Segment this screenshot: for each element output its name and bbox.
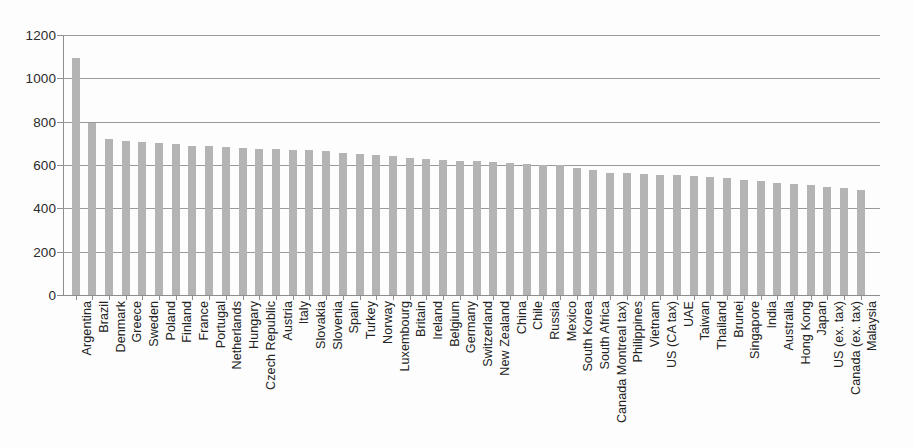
x-axis-category-label: US (ex. tax) xyxy=(832,301,846,368)
bar xyxy=(356,154,364,295)
bar-slot xyxy=(735,35,752,295)
x-axis-category-label: Thailand xyxy=(715,301,729,350)
x-axis-category-label: Italy xyxy=(297,301,311,324)
y-axis-label: 200 xyxy=(12,244,56,259)
bar-slot xyxy=(535,35,552,295)
bar-slot xyxy=(752,35,769,295)
x-axis-category-label: South Africa xyxy=(598,301,612,370)
bar-slot xyxy=(485,35,502,295)
x-tick xyxy=(827,295,828,300)
x-tick xyxy=(276,295,277,300)
x-axis-category-label: Japan xyxy=(815,301,829,336)
bar-slot xyxy=(301,35,318,295)
bar-slot xyxy=(435,35,452,295)
x-tick xyxy=(660,295,661,300)
bar-slot xyxy=(201,35,218,295)
bar xyxy=(88,123,96,295)
y-axis-label: 800 xyxy=(12,114,56,129)
bar-slot xyxy=(251,35,268,295)
bar-series xyxy=(63,35,880,295)
y-axis-label: 0 xyxy=(12,288,56,303)
x-axis-category-label: Switzerland xyxy=(481,301,495,367)
bar-slot xyxy=(401,35,418,295)
bar xyxy=(72,58,80,295)
x-tick xyxy=(560,295,561,300)
x-axis-category-label: Luxembourg xyxy=(398,301,412,372)
bar xyxy=(673,175,681,295)
bar xyxy=(773,183,781,295)
x-axis-category-label: Singapore xyxy=(748,301,762,359)
x-axis-category-label: Slovenia xyxy=(331,301,345,350)
x-axis-category-label: Hong Kong xyxy=(799,301,813,364)
bar-slot xyxy=(552,35,569,295)
x-tick xyxy=(710,295,711,300)
x-tick xyxy=(543,295,544,300)
bar-slot xyxy=(802,35,819,295)
bar-slot xyxy=(619,35,636,295)
bar-slot xyxy=(117,35,134,295)
x-tick xyxy=(777,295,778,300)
bar-slot xyxy=(502,35,519,295)
y-tick-0 xyxy=(57,295,63,296)
bar xyxy=(473,161,481,295)
x-axis-category-label: Canada (ex. tax) xyxy=(849,301,863,395)
bar xyxy=(840,188,848,295)
x-tick xyxy=(644,295,645,300)
x-tick xyxy=(744,295,745,300)
bar-slot xyxy=(635,35,652,295)
x-axis-category-label: Turkey xyxy=(364,301,378,339)
x-tick xyxy=(761,295,762,300)
bar xyxy=(389,156,397,295)
bar xyxy=(757,181,765,295)
bar-slot xyxy=(852,35,869,295)
bar xyxy=(790,184,798,295)
x-axis-category-label: Malaysia xyxy=(865,301,879,351)
x-tick xyxy=(410,295,411,300)
x-axis-category-label: Taiwan xyxy=(698,301,712,341)
bar-slot xyxy=(685,35,702,295)
x-tick xyxy=(309,295,310,300)
x-tick xyxy=(92,295,93,300)
bar-slot xyxy=(652,35,669,295)
x-axis-category-label: Russia xyxy=(548,301,562,340)
x-axis-category-label: Norway xyxy=(381,301,395,344)
x-tick xyxy=(126,295,127,300)
y-axis-label: 600 xyxy=(12,158,56,173)
x-axis-category-label: China xyxy=(515,301,529,334)
bar xyxy=(272,149,280,295)
x-tick xyxy=(209,295,210,300)
x-tick xyxy=(527,295,528,300)
bar-slot xyxy=(318,35,335,295)
y-axis-label: 1000 xyxy=(12,71,56,86)
bar xyxy=(422,159,430,295)
x-tick xyxy=(794,295,795,300)
x-tick xyxy=(159,295,160,300)
bar-chart: ArgentinaBrazilDenmarkGreeceSwedenPoland… xyxy=(0,0,914,448)
x-axis-category-label: India xyxy=(765,301,779,329)
bar-slot xyxy=(669,35,686,295)
x-axis-category-label: Greece xyxy=(130,301,144,343)
x-axis-category-label: Canada Montreal tax) xyxy=(615,301,629,423)
bar xyxy=(155,143,163,295)
bar xyxy=(640,174,648,295)
bar xyxy=(506,163,514,295)
bar-slot xyxy=(67,35,84,295)
x-axis-category-label: Australia xyxy=(782,301,796,350)
bar-slot xyxy=(151,35,168,295)
x-tick xyxy=(360,295,361,300)
bar xyxy=(606,173,614,295)
bar-slot xyxy=(368,35,385,295)
bar xyxy=(255,149,263,295)
bar-slot xyxy=(719,35,736,295)
bar-slot xyxy=(385,35,402,295)
bar xyxy=(172,144,180,295)
bar xyxy=(589,170,597,295)
x-axis-category-label: Philippines xyxy=(631,301,645,362)
bar xyxy=(205,146,213,295)
x-axis-category-label: Vietnam xyxy=(648,301,662,347)
y-axis-label: 400 xyxy=(12,201,56,216)
bar xyxy=(239,148,247,295)
x-tick xyxy=(226,295,227,300)
x-tick xyxy=(243,295,244,300)
bar-slot xyxy=(568,35,585,295)
